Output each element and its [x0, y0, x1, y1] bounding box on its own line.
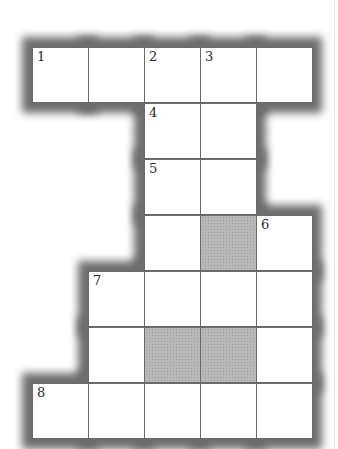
clue-number: 2	[149, 50, 157, 63]
grid-cell[interactable]	[256, 383, 313, 439]
grid-cell[interactable]	[88, 383, 145, 439]
block-cell	[200, 215, 257, 271]
grid-cell[interactable]: 6	[256, 215, 313, 271]
grid-cell[interactable]	[200, 159, 257, 215]
grid-cell[interactable]: 7	[88, 271, 145, 327]
grid-cell[interactable]	[88, 47, 145, 103]
grid-cell[interactable]	[256, 327, 313, 383]
grid-cell[interactable]: 3	[200, 47, 257, 103]
clue-number: 6	[261, 218, 269, 231]
clue-number: 7	[93, 274, 101, 287]
grid-cell[interactable]	[200, 383, 257, 439]
grid-cell[interactable]: 2	[144, 47, 201, 103]
grid-cell[interactable]	[256, 47, 313, 103]
crossword-grid: 12345678	[0, 0, 338, 449]
grid-cell[interactable]: 1	[32, 47, 89, 103]
grid-cell[interactable]	[88, 327, 145, 383]
clue-number: 8	[37, 386, 45, 399]
grid-cell[interactable]	[144, 215, 201, 271]
grid-cell[interactable]	[256, 271, 313, 327]
block-cell	[144, 327, 201, 383]
clue-number: 5	[149, 162, 157, 175]
grid-cell[interactable]	[144, 271, 201, 327]
grid-cell[interactable]	[200, 271, 257, 327]
clue-number: 4	[149, 106, 157, 119]
grid-cell[interactable]: 5	[144, 159, 201, 215]
block-cell	[200, 327, 257, 383]
grid-cell[interactable]: 4	[144, 103, 201, 159]
grid-cell[interactable]	[200, 103, 257, 159]
grid-cell[interactable]: 8	[32, 383, 89, 439]
clue-number: 1	[37, 50, 45, 63]
clue-number: 3	[205, 50, 213, 63]
grid-cell[interactable]	[144, 383, 201, 439]
